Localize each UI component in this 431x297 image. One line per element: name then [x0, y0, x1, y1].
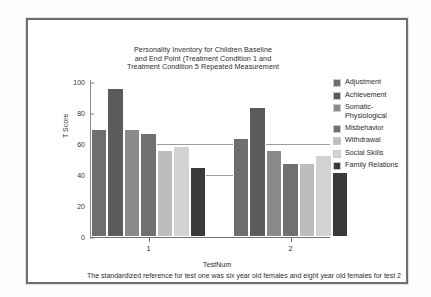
legend-item-label: Adjustment: [345, 78, 381, 87]
y-axis-tick: 0: [81, 234, 90, 241]
y-tick-mark: [90, 237, 94, 238]
y-axis-tick: 20: [77, 203, 90, 210]
chart-frame: Personality Inventory for Children Basel…: [26, 18, 408, 284]
screenshot-root: Personality Inventory for Children Basel…: [0, 0, 431, 297]
x-axis-label: TestNum: [28, 260, 406, 269]
legend-item-somatic-physiological[interactable]: Somatic- Physiological: [333, 103, 431, 122]
bar-achievement-group-2: [249, 107, 265, 237]
bar-social-skills-group-2: [315, 155, 331, 237]
chart-legend: AdjustmentAchievementSomatic- Physiologi…: [333, 78, 431, 174]
bar-somatic-physiological-group-1: [124, 129, 140, 238]
y-axis-tick: 100: [73, 79, 90, 86]
bar-withdrawal-group-1: [157, 150, 173, 237]
bar-adjustment-group-1: [91, 129, 107, 238]
chart-title: Personality Inventory for Children Basel…: [88, 46, 318, 72]
chart-caption: The standardized reference for test one …: [58, 272, 430, 280]
legend-item-social-skills[interactable]: Social Skills: [333, 149, 431, 160]
bar-achievement-group-1: [107, 88, 123, 237]
bar-family-relations-group-2: [332, 172, 348, 237]
x-axis-tick: [149, 237, 150, 242]
legend-item-misbehavior[interactable]: Misbehavior: [333, 124, 431, 135]
x-axis-tick-label: 1: [146, 244, 150, 253]
bar-withdrawal-group-2: [299, 163, 315, 237]
legend-item-label: Misbehavior: [345, 124, 384, 133]
legend-swatch-icon: [333, 79, 341, 87]
y-tick-mark: [90, 113, 94, 114]
chart-caption-line-2: test 2: [384, 272, 401, 279]
legend-swatch-icon: [333, 137, 341, 145]
y-axis-tick: 60: [77, 141, 90, 148]
bar-adjustment-group-2: [233, 138, 249, 237]
legend-item-label: Withdrawal: [345, 136, 381, 145]
legend-swatch-icon: [333, 150, 341, 158]
legend-item-label: Social Skills: [345, 149, 383, 158]
x-axis-line: [90, 237, 330, 238]
y-axis-tick: 40: [77, 172, 90, 179]
bar-social-skills-group-1: [173, 146, 189, 237]
legend-swatch-icon: [333, 92, 341, 100]
legend-item-label: Family Relations: [345, 161, 398, 170]
y-axis-label: T Score: [62, 114, 69, 138]
legend-swatch-icon: [333, 162, 341, 170]
legend-item-label: Somatic- Physiological: [345, 103, 387, 120]
legend-swatch-icon: [333, 104, 341, 112]
chart-caption-line-1: The standardized reference for test one …: [87, 272, 382, 279]
legend-item-withdrawal[interactable]: Withdrawal: [333, 136, 431, 147]
bar-somatic-physiological-group-2: [266, 150, 282, 237]
legend-item-adjustment[interactable]: Adjustment: [333, 78, 431, 89]
x-axis-tick-label: 2: [288, 244, 292, 253]
legend-item-achievement[interactable]: Achievement: [333, 91, 431, 102]
bar-misbehavior-group-2: [282, 163, 298, 237]
y-tick-mark: [90, 82, 94, 83]
legend-item-family-relations[interactable]: Family Relations: [333, 161, 431, 172]
x-axis-tick: [291, 237, 292, 242]
bar-misbehavior-group-1: [140, 133, 156, 237]
y-axis-tick: 80: [77, 110, 90, 117]
bar-family-relations-group-1: [190, 167, 206, 237]
plot-area: 020406080100: [90, 82, 328, 237]
legend-swatch-icon: [333, 125, 341, 133]
legend-item-label: Achievement: [345, 91, 387, 100]
chart-title-line-3: Treatment Condition 5 Repeated Measureme…: [88, 63, 318, 72]
